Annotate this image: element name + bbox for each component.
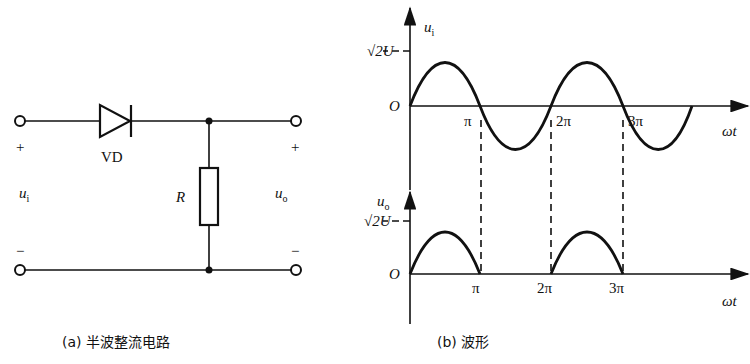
upper-y-label: ui — [424, 20, 434, 38]
upper-tick-3pi: 3π — [628, 114, 643, 129]
output-plus: + — [291, 140, 299, 155]
circuit-caption: (a) 半波整流电路 — [62, 331, 170, 351]
upper-tick-2pi: 2π — [556, 114, 571, 129]
input-voltage-label: ui — [19, 186, 29, 204]
upper-origin: O — [389, 99, 400, 114]
lower-tick-2pi: 2π — [537, 281, 552, 296]
input-plus: + — [16, 140, 24, 155]
lower-y-label: uo — [377, 194, 390, 212]
lower-x-label: ωt — [722, 294, 737, 309]
output-voltage-label: uo — [275, 186, 288, 204]
lower-tick-pi: π — [472, 281, 480, 296]
lower-tick-3pi: 3π — [609, 281, 624, 296]
input-minus: − — [16, 244, 24, 259]
circuit — [15, 105, 301, 275]
upper-peak-label: √2U — [367, 44, 394, 59]
upper-x-label: ωt — [722, 124, 737, 139]
lower-origin: O — [389, 267, 400, 282]
upper-tick-pi: π — [464, 114, 472, 129]
resistor-label: R — [176, 190, 185, 205]
lower-peak-label: √2U — [364, 214, 391, 229]
output-minus: − — [291, 244, 299, 259]
diode-label: VD — [101, 150, 123, 165]
waveform-caption: (b) 波形 — [437, 331, 489, 351]
